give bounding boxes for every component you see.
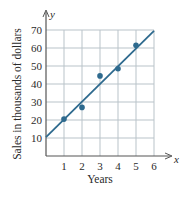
y-axis-label: Sales in thousands of dollars	[11, 28, 23, 160]
y-tick-label: 60	[31, 42, 43, 54]
y-tick-label: 70	[31, 24, 43, 36]
x-tick-label: 6	[151, 160, 157, 172]
data-point	[115, 66, 121, 72]
y-tick-label: 30	[31, 96, 43, 108]
chart: 12345610203040506070 Years Sales in thou…	[0, 0, 194, 203]
grid	[46, 30, 154, 156]
x-tick-label: 5	[133, 160, 139, 172]
x-tick-label: 1	[61, 160, 67, 172]
data-point	[61, 116, 67, 122]
x-axis-label: Years	[87, 173, 113, 185]
y-tick-label: 50	[31, 60, 43, 72]
y-tick-label: 20	[31, 114, 43, 126]
x-tick-label: 4	[115, 160, 121, 172]
data-point	[97, 73, 103, 79]
x-tick-label: 3	[97, 160, 103, 172]
x-axis-symbol: x	[173, 153, 179, 165]
x-tick-label: 2	[79, 160, 85, 172]
data-point	[79, 105, 85, 111]
y-tick-label: 10	[31, 132, 43, 144]
data-point	[133, 43, 139, 49]
y-axis-symbol: y	[49, 8, 55, 20]
y-tick-label: 40	[31, 78, 43, 90]
